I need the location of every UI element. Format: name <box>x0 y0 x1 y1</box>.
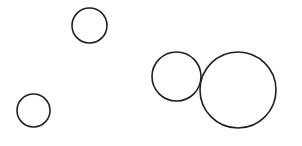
circle-large-right <box>200 52 276 128</box>
circles-diagram <box>0 0 302 146</box>
circle-bottom-left <box>17 94 50 127</box>
circle-middle <box>152 52 201 101</box>
circle-top-left <box>72 8 107 43</box>
figure-canvas <box>0 0 302 146</box>
